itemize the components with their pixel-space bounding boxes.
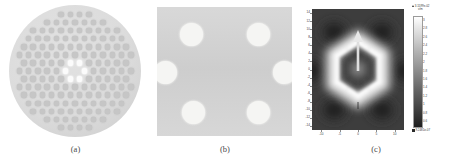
lattice-hole — [100, 52, 105, 57]
panel-a: (a) — [0, 0, 151, 164]
lattice-hole — [40, 92, 45, 97]
lattice-hole — [72, 36, 77, 41]
y-tick-mark — [310, 70, 312, 71]
colorbar-tick-label: 2 — [423, 61, 425, 64]
lattice-hole — [82, 36, 87, 41]
lattice-hole — [105, 92, 110, 97]
figure-container: (a) (b) — [0, 0, 453, 164]
lattice-hole — [77, 125, 82, 130]
colorbar-tick-label: 1 — [423, 103, 425, 106]
lattice-hole — [110, 36, 115, 41]
lattice-hole — [68, 44, 73, 49]
lattice-hole — [119, 84, 124, 89]
x-tick-mark — [340, 130, 341, 132]
lattice-hole — [30, 28, 35, 33]
lattice-hole — [77, 92, 82, 97]
panel-b-image — [157, 7, 292, 136]
lattice-hole — [63, 117, 68, 122]
lattice-hole — [82, 52, 87, 57]
y-tick-mark — [310, 94, 312, 95]
panel-c-caption: (c) — [299, 144, 453, 154]
lattice-hole — [72, 84, 77, 89]
lattice-hole — [128, 52, 133, 57]
panel-c: 14121086420-2-4-6-8-10-12-14 -10-50510 3… — [299, 0, 453, 164]
y-tick-mark — [310, 110, 312, 111]
lattice-hole — [49, 44, 54, 49]
lattice-hole — [54, 52, 59, 57]
lattice-hole — [26, 36, 31, 41]
lattice-hole — [86, 125, 91, 130]
lattice-hole — [17, 84, 22, 89]
lattice-hole — [110, 52, 115, 57]
lattice-hole — [54, 101, 59, 106]
lattice-hole — [96, 109, 101, 114]
y-tick-label: 12 — [299, 20, 310, 23]
lattice-hole — [68, 125, 73, 130]
lattice-hole — [100, 101, 105, 106]
lattice-hole — [100, 117, 105, 122]
magnified-hole — [247, 101, 270, 124]
bright-hole — [82, 68, 87, 73]
bright-hole — [77, 60, 82, 65]
lattice-hole — [35, 36, 40, 41]
colorbar-tick-label: 2.8 — [423, 27, 427, 30]
x-tick-label: 10 — [389, 133, 401, 136]
lattice-hole — [40, 109, 45, 114]
lattice-hole — [21, 44, 26, 49]
lattice-hole — [114, 44, 119, 49]
colorbar-tick-label: 3 — [423, 19, 425, 22]
y-tick-label: -4 — [299, 84, 310, 87]
lattice-hole — [58, 125, 63, 130]
lattice-hole — [96, 76, 101, 81]
lattice-hole — [58, 28, 63, 33]
lattice-hole — [82, 117, 87, 122]
lattice-hole — [91, 117, 96, 122]
lattice-hole — [77, 44, 82, 49]
lattice-hole — [49, 28, 54, 33]
lattice-hole — [40, 28, 45, 33]
lattice-hole — [100, 20, 105, 25]
lattice-hole — [54, 36, 59, 41]
colorbar-min-label: 9.2481e-07 — [412, 129, 430, 132]
x-tick-label: -5 — [334, 133, 346, 136]
lattice-hole — [91, 101, 96, 106]
lattice-hole — [72, 117, 77, 122]
lattice-hole — [105, 28, 110, 33]
lattice-hole — [63, 84, 68, 89]
y-tick-label: -14 — [299, 124, 310, 127]
x-tick-label: 0 — [352, 133, 364, 136]
y-tick-label: 8 — [299, 36, 310, 39]
x-tick-mark — [358, 130, 359, 132]
lattice-hole — [86, 28, 91, 33]
lattice-hole — [114, 76, 119, 81]
panel-a-caption: (a) — [0, 144, 151, 154]
lattice-hole — [105, 109, 110, 114]
lattice-hole — [35, 101, 40, 106]
bright-hole — [63, 68, 68, 73]
lattice-hole — [17, 52, 22, 57]
y-tick-label: -6 — [299, 92, 310, 95]
y-tick-mark — [310, 78, 312, 79]
y-tick-mark — [310, 53, 312, 54]
lattice-hole — [86, 60, 91, 65]
y-tick-mark — [310, 29, 312, 30]
lattice-hole — [35, 68, 40, 73]
colorbar-max-unit: v/m — [418, 7, 423, 11]
lattice-hole — [110, 68, 115, 73]
lattice-hole — [119, 52, 124, 57]
colorbar-group: 3.1599e-02 v/m 32.82.62.42.221.81.61.41.… — [413, 16, 453, 130]
lattice-hole — [63, 20, 68, 25]
y-tick-mark — [310, 126, 312, 127]
lattice-hole — [82, 84, 87, 89]
lattice-hole — [91, 84, 96, 89]
lattice-hole — [44, 101, 49, 106]
y-tick-mark — [310, 13, 312, 14]
lattice-hole — [77, 28, 82, 33]
lattice-hole — [123, 76, 128, 81]
lattice-hole — [44, 36, 49, 41]
lattice-hole — [96, 60, 101, 65]
lattice-hole — [40, 60, 45, 65]
lattice-hole — [21, 60, 26, 65]
y-tick-label: 0 — [299, 68, 310, 71]
colorbar-tick-label: 2.2 — [423, 53, 427, 56]
